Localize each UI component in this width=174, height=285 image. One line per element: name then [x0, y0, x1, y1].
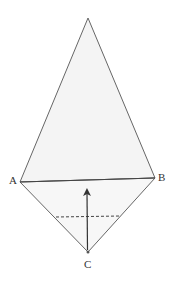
point-c-marker [87, 251, 90, 254]
kite-diagram: A B C [0, 0, 174, 285]
label-b: B [158, 171, 165, 183]
upward-arrow [87, 192, 88, 250]
label-a: A [9, 174, 17, 186]
label-c: C [84, 258, 91, 270]
upper-triangle [20, 18, 155, 182]
